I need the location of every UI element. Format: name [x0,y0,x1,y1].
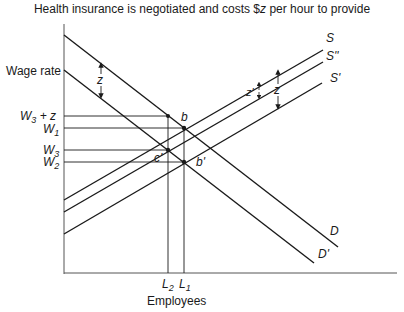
x-tick-l2: L2 [162,277,174,293]
label-s-double: S'' [326,49,339,63]
y-axis-label: Wage rate [6,64,61,78]
z-label-supply: z [273,83,280,97]
point-b [182,126,186,130]
point-b-prime [182,160,186,164]
label-b: b [181,110,188,124]
label-s-prime: S' [330,71,341,85]
label-d: D [330,224,339,238]
supply-curve-s-prime [64,83,322,234]
svg-text:L1: L1 [179,277,191,293]
label-c-prime: c' [154,151,163,165]
x-axis-label: Employees [147,294,206,308]
svg-text:L2: L2 [162,277,174,293]
label-b-prime: b' [196,155,206,169]
point-c-prime [166,148,170,152]
label-s: S [326,31,334,45]
demand-curve-d [64,35,338,247]
z-label-demand: z [96,73,103,87]
demand-curve-d-prime [64,70,314,263]
labor-market-diagram: z z z' S S'' S' D D' b b' c' Wage rate E… [0,0,404,312]
label-d-prime: D' [318,247,330,261]
z-prime-label: z' [245,86,255,98]
point-d-at-l2 [166,114,170,118]
x-tick-l1: L1 [179,277,191,293]
svg-text:W1: W1 [43,122,59,138]
y-tick-w1: W1 [43,122,59,138]
